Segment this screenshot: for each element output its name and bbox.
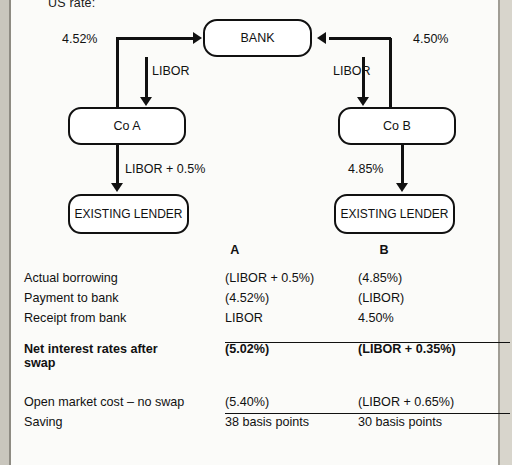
node-co-b: Co B [338,107,456,145]
row-value-a: (4.52%) [225,291,358,305]
net-row-label: Net interest rates after swap [24,342,225,370]
comparison-table: A B Actual borrowing (LIBOR + 0.5%) (4.8… [24,243,490,429]
table-row: Receipt from bank LIBOR 4.50% [24,311,490,325]
label-left-existing: LIBOR + 0.5% [125,162,205,176]
row-label: Actual borrowing [24,271,225,285]
row-value-a: 38 basis points [225,415,358,429]
row-label: Saving [24,415,225,429]
node-co-a-label: Co A [113,119,140,133]
row-value-a: (LIBOR + 0.5%) [225,271,358,285]
table-header-b: B [342,243,490,257]
row-value-a: LIBOR [225,311,358,325]
table-header-a: A [192,243,341,257]
page-left-edge-line [9,0,11,465]
node-bank: BANK [203,19,312,57]
line-bank-to-a-vertical [145,57,148,99]
page-canvas: US rate: BANK Co A Co B EXISTING LENDER … [0,0,512,465]
node-existing-lender-a: EXISTING LENDER [68,194,189,234]
line-b-to-bank-horizontal [329,37,391,40]
line-b-to-lender [401,145,404,185]
arrow-bank-to-b [357,97,369,106]
row-value-b: (LIBOR + 0.65%) [358,395,490,409]
label-right-rate: 4.50% [413,32,448,46]
table-row: Saving 38 basis points 30 basis points [24,415,490,429]
row-value-b: (4.85%) [358,271,490,285]
rule-b-top [358,342,510,343]
label-left-libor: LIBOR [152,64,190,78]
page-right-edge [498,0,512,465]
row-value-b: 30 basis points [358,415,490,429]
net-row-label-line2: swap [24,356,225,370]
row-value-b: 4.50% [358,311,490,325]
arrow-bank-to-a [140,97,152,106]
label-left-rate: 4.52% [62,32,97,46]
row-label: Payment to bank [24,291,225,305]
line-a-to-bank-horizontal [116,37,196,40]
row-value-b: (LIBOR) [358,291,490,305]
page-right-edge-line [498,0,500,465]
table-row: Open market cost – no swap (5.40%) (LIBO… [24,395,490,409]
line-b-to-bank-vertical [389,38,392,107]
label-right-libor: LIBOR [333,64,371,78]
arrow-a-to-bank [193,32,202,44]
rule-a-bottom [225,413,377,414]
net-row-value-b: (LIBOR + 0.35%) [358,342,490,356]
net-row-label-line1: Net interest rates after [24,342,225,356]
node-co-b-label: Co B [383,119,411,133]
node-existing-lender-b: EXISTING LENDER [334,194,455,234]
node-bank-label: BANK [240,31,274,45]
table-row: Payment to bank (4.52%) (LIBOR) [24,291,490,305]
node-existing-lender-a-label: EXISTING LENDER [74,207,182,221]
table-header-row: A B [24,243,490,257]
arrow-b-to-bank [317,32,326,44]
arrow-b-to-lender [396,183,408,192]
line-a-to-bank-vertical [116,38,119,107]
rule-a-top [225,342,377,343]
node-existing-lender-b-label: EXISTING LENDER [340,207,448,221]
table-row: Actual borrowing (LIBOR + 0.5%) (4.85%) [24,271,490,285]
node-co-a: Co A [68,107,186,145]
arrow-a-to-lender [111,183,123,192]
label-right-existing: 4.85% [348,162,383,176]
row-value-a: (5.40%) [225,395,358,409]
line-a-to-lender [116,145,119,185]
row-label: Receipt from bank [24,311,225,325]
row-label: Open market cost – no swap [24,395,225,409]
net-interest-row: Net interest rates after swap (5.02%) (L… [24,342,490,370]
cropped-heading: US rate: [48,0,95,10]
net-row-value-a: (5.02%) [225,342,358,356]
rule-b-bottom [358,413,510,414]
